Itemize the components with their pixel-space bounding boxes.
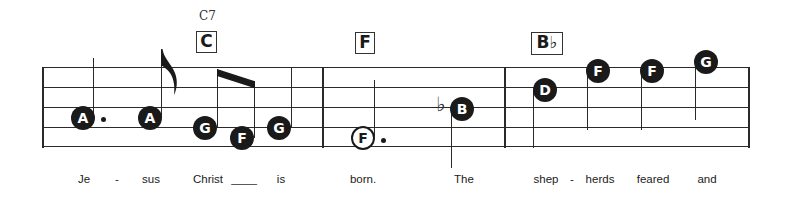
note-g: G: [694, 50, 718, 74]
note-g: G: [267, 116, 291, 140]
lyric-syllable: sus: [142, 173, 160, 185]
note-b-flat: B: [450, 97, 474, 121]
barline-end: [748, 67, 750, 148]
stem: [695, 62, 696, 120]
stem: [587, 71, 588, 130]
stem: [217, 69, 218, 127]
stem: [451, 110, 452, 168]
lyric-syllable: feared: [637, 173, 670, 185]
note-f: F: [230, 126, 254, 150]
barline-start: [42, 67, 44, 148]
note-f: F: [586, 59, 610, 83]
barline-1: [322, 67, 324, 148]
lyric-hyphen: -: [115, 173, 119, 185]
note-a: A: [138, 106, 162, 130]
lyric-hyphen: -: [570, 173, 574, 185]
note-a: A: [71, 106, 95, 130]
note-f: F: [640, 59, 664, 83]
stem: [93, 58, 94, 116]
lyric-syllable: Christ: [193, 173, 223, 185]
flat-icon: ♭: [436, 92, 445, 116]
barline-2: [504, 67, 506, 148]
chord-box-f: F: [355, 32, 375, 54]
chord-box-bflat: B♭: [531, 32, 563, 55]
stem: [533, 90, 534, 148]
note-f-half: F: [351, 126, 375, 150]
stem: [641, 71, 642, 130]
stem: [254, 81, 255, 138]
augmentation-dot: [101, 117, 106, 122]
stem: [291, 68, 292, 128]
staff-line-2: [43, 87, 750, 88]
note-d: D: [533, 78, 557, 102]
augmentation-dot: [381, 138, 386, 143]
eighth-flag-icon: [161, 49, 181, 109]
lyric-syllable: is: [277, 173, 285, 185]
lyric-syllable: The: [454, 173, 474, 185]
lyric-extender: ____: [231, 173, 257, 185]
lyric-syllable: and: [697, 173, 716, 185]
lyric-syllable: shep: [534, 173, 559, 185]
lyric-syllable: herds: [586, 173, 615, 185]
chord-name-c7: C7: [199, 9, 216, 23]
staff-line-5: [43, 146, 750, 147]
lyric-syllable: Je: [78, 173, 90, 185]
note-g: G: [193, 116, 217, 140]
beam: [217, 69, 255, 88]
lyric-syllable: born.: [350, 173, 376, 185]
chord-box-c: C: [196, 31, 217, 53]
stem: [374, 80, 375, 136]
